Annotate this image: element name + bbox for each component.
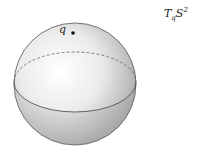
- tangent-sup: 2: [183, 6, 187, 14]
- sphere-diagram: [0, 0, 213, 154]
- tangent-space-label: TqS2: [164, 6, 188, 22]
- point-q: [71, 31, 75, 35]
- point-label: q: [59, 23, 66, 36]
